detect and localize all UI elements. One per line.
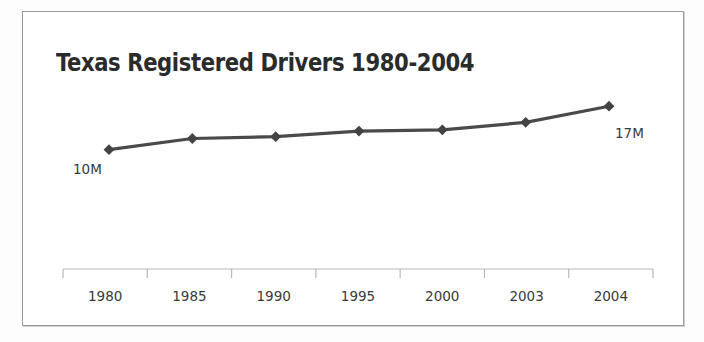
data-point-marker	[604, 101, 615, 112]
data-point-marker	[104, 144, 115, 155]
x-axis-tick-label-1980: 1980	[88, 288, 122, 304]
x-axis-tick-label-2003: 2003	[509, 288, 543, 304]
x-axis-tick-label-1995: 1995	[341, 288, 375, 304]
data-point-marker	[520, 117, 531, 128]
x-axis-tick-label-1985: 1985	[172, 288, 206, 304]
x-axis-tick-label-2000: 2000	[425, 288, 459, 304]
data-point-marker	[354, 126, 365, 137]
data-label-start: 10M	[73, 161, 102, 177]
data-point-marker	[187, 133, 198, 144]
x-axis-tick-label-1990: 1990	[257, 288, 291, 304]
x-axis	[63, 269, 653, 278]
data-point-marker	[270, 131, 281, 142]
data-point-marker	[437, 124, 448, 135]
data-point-markers	[104, 101, 615, 155]
chart-card: Texas Registered Drivers 1980-2004 10M 1…	[22, 11, 684, 326]
line-chart-plot	[23, 12, 685, 327]
data-label-end: 17M	[615, 125, 644, 141]
page-background: Texas Registered Drivers 1980-2004 10M 1…	[0, 0, 704, 342]
x-axis-tick-label-2004: 2004	[594, 288, 628, 304]
